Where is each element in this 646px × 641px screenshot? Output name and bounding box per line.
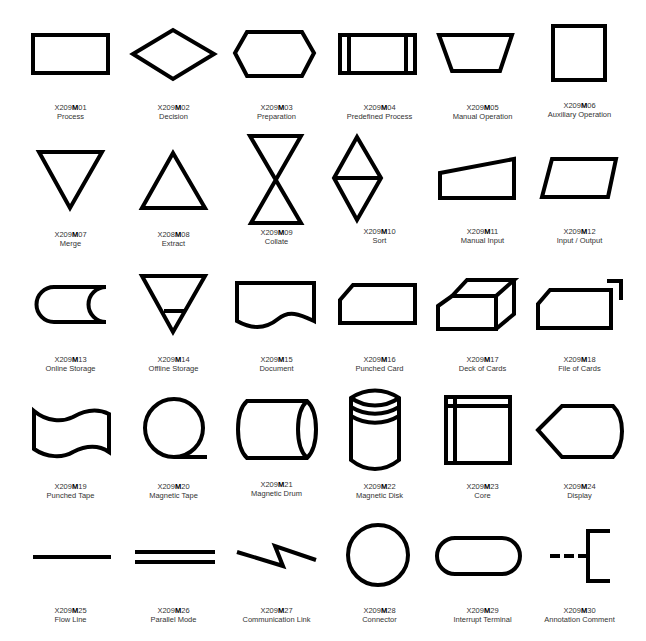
symbol-name: Sort xyxy=(326,236,433,245)
symbol-code: X209M06 xyxy=(526,101,633,110)
symbol-code: X209M15 xyxy=(223,355,330,364)
symbol-sort: X209M10 Sort xyxy=(326,130,433,255)
symbol-code: X209M18 xyxy=(526,355,633,364)
flow-line-icon xyxy=(17,510,124,600)
collate-icon xyxy=(223,130,330,220)
manual-operation-icon xyxy=(429,0,536,90)
symbol-name: Punched Tape xyxy=(17,491,124,500)
symbol-name: Manual Operation xyxy=(429,112,536,121)
symbol-code: X209M09 xyxy=(223,228,330,237)
sort-icon xyxy=(326,130,433,220)
symbol-name: Online Storage xyxy=(17,364,124,373)
symbol-name: Punched Card xyxy=(326,364,433,373)
symbol-parallel-mode: X209M26 Parallel Mode xyxy=(120,510,227,635)
symbol-code: X209M24 xyxy=(526,482,633,491)
symbol-name: Predefined Process xyxy=(326,112,433,121)
symbol-display: X209M24 Display xyxy=(526,380,633,505)
connector-icon xyxy=(326,510,433,600)
predefined-process-icon xyxy=(326,0,433,90)
symbol-name: Offline Storage xyxy=(120,364,227,373)
file-of-cards-icon xyxy=(526,260,633,350)
symbol-extract: X208M08 Extract xyxy=(120,130,227,255)
symbol-deck-of-cards: X209M17 Deck of Cards xyxy=(429,260,536,385)
symbol-flow-line: X209M25 Flow Line xyxy=(17,510,124,635)
symbol-punched-tape: X209M19 Punched Tape xyxy=(17,380,124,505)
symbol-name: Communication Link xyxy=(223,615,330,624)
input-output-icon xyxy=(526,130,633,220)
symbol-name: Input / Output xyxy=(526,236,633,245)
symbol-name: Extract xyxy=(120,239,227,248)
display-icon xyxy=(526,380,633,470)
manual-input-icon xyxy=(429,130,536,220)
symbol-code: X209M17 xyxy=(429,355,536,364)
symbol-code: X209M05 xyxy=(429,103,536,112)
symbol-name: Auxiliary Operation xyxy=(526,110,633,119)
symbol-preparation: X209M03 Preparation xyxy=(223,0,330,125)
core-icon xyxy=(429,380,536,470)
symbol-name: Annotation Comment xyxy=(526,615,633,624)
punched-tape-icon xyxy=(17,380,124,470)
symbol-code: X209M01 xyxy=(17,103,124,112)
symbol-magnetic-drum: X209M21 Magnetic Drum xyxy=(223,380,330,505)
symbol-name: Decision xyxy=(120,112,227,121)
symbol-annotation-comment: X209M30 Annotation Comment xyxy=(526,510,633,635)
symbol-manual-input: X209M11 Manual Input xyxy=(429,130,536,255)
symbol-code: X209M19 xyxy=(17,482,124,491)
symbol-code: X209M20 xyxy=(120,482,227,491)
preparation-icon xyxy=(223,0,330,90)
symbol-manual-operation: X209M05 Manual Operation xyxy=(429,0,536,125)
symbol-offline-storage: X209M14 Offline Storage xyxy=(120,260,227,385)
symbol-communication-link: X209M27 Communication Link xyxy=(223,510,330,635)
symbol-code: X209M13 xyxy=(17,355,124,364)
decision-icon xyxy=(120,0,227,90)
symbol-code: X209M07 xyxy=(17,230,124,239)
document-icon xyxy=(223,260,330,350)
symbol-code: X209M21 xyxy=(223,480,330,489)
symbol-code: X209M28 xyxy=(326,606,433,615)
parallel-mode-icon xyxy=(120,510,227,600)
symbol-code: X209M10 xyxy=(326,227,433,236)
symbol-connector: X209M28 Connector xyxy=(326,510,433,635)
symbol-name: Core xyxy=(429,491,536,500)
symbol-code: X208M08 xyxy=(120,230,227,239)
symbol-auxiliary-operation: X209M06 Auxiliary Operation xyxy=(526,0,633,125)
symbol-code: X209M11 xyxy=(429,227,536,236)
symbol-merge: X209M07 Merge xyxy=(17,130,124,255)
symbol-name: Merge xyxy=(17,239,124,248)
symbol-online-storage: X209M13 Online Storage xyxy=(17,260,124,385)
symbol-code: X209M30 xyxy=(526,606,633,615)
online-storage-icon xyxy=(17,260,124,350)
symbol-name: Manual Input xyxy=(429,236,536,245)
communication-link-icon xyxy=(223,510,330,600)
interrupt-terminal-icon xyxy=(429,510,536,600)
symbol-code: X209M02 xyxy=(120,103,227,112)
process-icon xyxy=(17,0,124,90)
symbol-punched-card: X209M16 Punched Card xyxy=(326,260,433,385)
symbol-collate: X209M09 Collate xyxy=(223,130,330,255)
symbol-magnetic-tape: X209M20 Magnetic Tape xyxy=(120,380,227,505)
symbol-process: X209M01 Process xyxy=(17,0,124,125)
symbol-code: X209M12 xyxy=(526,227,633,236)
symbol-code: X209M25 xyxy=(17,606,124,615)
offline-storage-icon xyxy=(120,260,227,350)
magnetic-drum-icon xyxy=(223,380,330,470)
symbol-interrupt-terminal: X209M29 Interrupt Terminal xyxy=(429,510,536,635)
deck-of-cards-icon xyxy=(429,260,536,350)
symbol-name: File of Cards xyxy=(526,364,633,373)
symbol-name: Magnetic Disk xyxy=(326,491,433,500)
symbol-input-output: X209M12 Input / Output xyxy=(526,130,633,255)
symbol-core: X209M23 Core xyxy=(429,380,536,505)
symbol-name: Preparation xyxy=(223,112,330,121)
symbol-magnetic-disk: X209M22 Magnetic Disk xyxy=(326,380,433,505)
symbol-name: Connector xyxy=(326,615,433,624)
symbol-code: X209M22 xyxy=(326,482,433,491)
symbol-decision: X209M02 Decision xyxy=(120,0,227,125)
annotation-comment-icon xyxy=(526,510,633,600)
symbol-code: X209M27 xyxy=(223,606,330,615)
symbol-document: X209M15 Document xyxy=(223,260,330,385)
symbol-code: X209M29 xyxy=(429,606,536,615)
symbol-predefined-process: X209M04 Predefined Process xyxy=(326,0,433,125)
symbol-name: Magnetic Drum xyxy=(223,489,330,498)
magnetic-disk-icon xyxy=(326,380,433,470)
symbol-name: Collate xyxy=(223,237,330,246)
